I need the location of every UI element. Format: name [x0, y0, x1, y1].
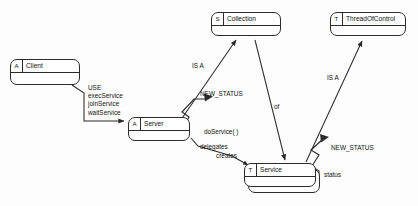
label-status: status [324, 171, 341, 179]
class-box-collection[interactable]: S Collection [211, 12, 281, 36]
class-box-server[interactable]: A Server [128, 117, 190, 141]
class-stereotype-server: A [129, 118, 141, 130]
class-header-collection: S Collection [212, 13, 280, 26]
label-creates: creates [216, 152, 237, 160]
class-stereotype-client: A [11, 60, 23, 72]
label-use-block: USE execService joinService waitService [88, 84, 123, 117]
label-is-a-right: IS A [327, 74, 339, 82]
class-stereotype-threadofcontrol: T [331, 13, 343, 25]
class-body-service [245, 177, 315, 187]
edge-collection-of-service [255, 40, 285, 160]
edge-service-new-status [311, 139, 323, 166]
class-stereotype-collection: S [212, 13, 224, 25]
class-body-server [129, 131, 189, 141]
label-do-service: doService( ) [204, 128, 238, 136]
label-delegates: delegates [200, 143, 228, 151]
class-header-threadofcontrol: T ThreadOfControl [331, 13, 405, 26]
class-body-threadofcontrol [331, 26, 405, 36]
class-box-service[interactable]: T Service [244, 163, 316, 187]
class-box-client[interactable]: A Client [10, 59, 80, 85]
class-name-collection: Collection [224, 13, 280, 25]
class-body-collection [212, 26, 280, 36]
label-is-a-left: IS A [192, 62, 204, 70]
diagram-canvas: A Client A Server S Collection T ThreadO… [0, 0, 418, 206]
class-stereotype-service: T [245, 164, 257, 176]
label-of: of [274, 103, 279, 111]
class-body-client [11, 73, 79, 85]
label-new-status-right: NEW_STATUS [331, 144, 374, 152]
edge-server-is-a-collection [178, 40, 236, 124]
arrowhead-new-status-service [320, 134, 329, 143]
class-name-threadofcontrol: ThreadOfControl [343, 13, 405, 25]
class-name-server: Server [141, 118, 189, 130]
class-header-client: A Client [11, 60, 79, 73]
label-new-status-left: NEW_STATUS [200, 90, 243, 98]
class-header-server: A Server [129, 118, 189, 131]
class-name-client: Client [23, 60, 79, 72]
class-header-service: T Service [245, 164, 315, 177]
class-name-service: Service [257, 164, 315, 176]
class-box-threadofcontrol[interactable]: T ThreadOfControl [330, 12, 406, 36]
